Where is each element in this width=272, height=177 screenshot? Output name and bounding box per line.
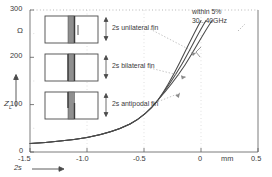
x-axis-arrow xyxy=(32,167,64,172)
inset-label-unilateral: 2s unilateral fin xyxy=(112,25,158,32)
x-tick-marks xyxy=(30,148,258,152)
y-grid-guides xyxy=(30,34,36,129)
impedance-chart-figure: 300 200 100 0 Ω ZL -1.5 -1.0 -0.5 0 0.5 … xyxy=(0,0,272,177)
x-axis-unit: mm xyxy=(221,155,233,162)
inset-label-bilateral: 2s bilateral fin xyxy=(112,63,155,70)
curve-split-marks xyxy=(196,47,201,57)
inset-dimension-arrows xyxy=(104,18,108,117)
x-tick-label-neg15: -1.5 xyxy=(18,155,31,162)
leader-unilateral xyxy=(150,29,196,53)
y-axis-unit: Ω xyxy=(17,27,23,35)
annotation-frequency: 30...40GHz xyxy=(192,18,227,25)
inset-box-unilateral xyxy=(45,16,98,43)
inset-box-bilateral xyxy=(45,54,98,81)
annotation-bandwidth: within 5% xyxy=(192,9,222,16)
x-tick-label-neg05: -0.5 xyxy=(133,155,146,162)
leader-bilateral xyxy=(150,68,186,77)
inset-label-antipodal: 2s antipodal fin xyxy=(112,101,158,108)
x-axis-label: 2s xyxy=(14,164,22,171)
y-axis-label: ZL xyxy=(4,100,12,110)
x-tick-label-neg10: -1.0 xyxy=(76,155,89,162)
x-tick-label-0: 0 xyxy=(198,155,202,162)
y-tick-label-300: 300 xyxy=(10,5,22,12)
annotation-leader xyxy=(238,24,245,31)
inset-box-antipodal xyxy=(45,92,98,119)
leader-lines xyxy=(150,29,196,104)
y-tick-label-200: 200 xyxy=(10,52,22,59)
x-tick-label-05: 0.5 xyxy=(251,155,261,162)
